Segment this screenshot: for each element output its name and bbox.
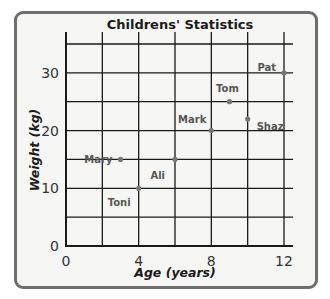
x-tick-label: 0 — [62, 253, 71, 269]
chart-title: Childrens' Statistics — [107, 17, 254, 32]
point-label-ali: Ali — [150, 170, 165, 181]
y-tick-label: 0 — [50, 238, 59, 254]
data-point-mary — [118, 157, 123, 162]
point-label-mary: Mary — [84, 154, 113, 165]
point-label-shaz: Shaz — [257, 121, 284, 132]
y-tick-label: 10 — [41, 180, 59, 196]
data-point-toni — [136, 186, 141, 191]
scatter-chart: Childrens' Statistics 048120102030 MaryA… — [0, 0, 330, 299]
data-point-shaz — [245, 116, 250, 121]
point-label-mark: Mark — [178, 114, 207, 125]
point-label-tom: Tom — [216, 83, 239, 94]
data-point-tom — [227, 99, 232, 104]
tick-labels: 048120102030 — [41, 65, 293, 269]
data-point-ali — [172, 157, 177, 162]
point-label-toni: Toni — [108, 197, 131, 208]
data-point-pat — [281, 70, 286, 75]
y-tick-label: 20 — [41, 123, 59, 139]
point-label-pat: Pat — [257, 62, 276, 73]
y-axis-label: Weight (kg) — [27, 109, 42, 192]
y-tick-label: 30 — [41, 65, 59, 81]
x-axis-label: Age (years) — [133, 265, 216, 280]
data-point-mark — [209, 128, 214, 133]
data-points: MaryAliToniMarkTomShazPat — [84, 62, 286, 208]
x-tick-label: 12 — [275, 253, 293, 269]
